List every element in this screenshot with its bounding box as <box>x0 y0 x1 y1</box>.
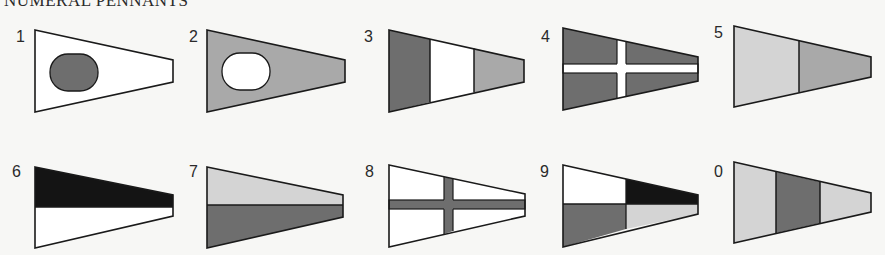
pennant-2 <box>206 29 346 113</box>
pennant-label-6: 6 <box>12 163 21 181</box>
pennant-1 <box>34 29 174 113</box>
pennant-label-3: 3 <box>364 28 373 46</box>
pennant-label-9: 9 <box>540 163 549 181</box>
pennant-label-2: 2 <box>189 28 198 46</box>
pennant-label-7: 7 <box>189 163 198 181</box>
pennant-label-5: 5 <box>714 24 723 42</box>
pennant-5 <box>733 25 873 109</box>
pennant-label-1: 1 <box>16 28 25 46</box>
pennant-label-4: 4 <box>541 28 550 46</box>
pennant-9 <box>562 164 702 248</box>
pennant-6 <box>34 166 174 250</box>
pennant-label-8: 8 <box>365 163 374 181</box>
pennant-0 <box>733 161 873 245</box>
pennant-7 <box>206 166 346 250</box>
pennant-8 <box>388 164 528 248</box>
pennant-label-0: 0 <box>714 163 723 181</box>
pennant-3 <box>388 29 528 113</box>
diagram-title: NUMERAL PENNANTS <box>4 0 188 11</box>
pennant-4 <box>562 27 702 111</box>
